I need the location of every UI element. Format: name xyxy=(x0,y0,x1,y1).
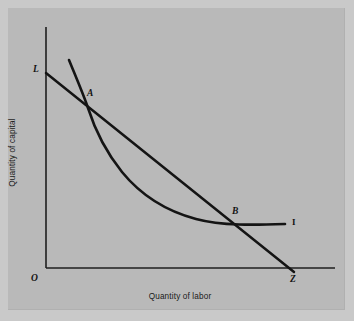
x-axis-title: Quantity of labor xyxy=(110,292,250,301)
label-origin-O: O xyxy=(31,273,38,283)
label-isoquant-I: I xyxy=(292,217,296,227)
label-point-B: B xyxy=(232,206,238,216)
figure-container: Quantity of capital Quantity of labor L … xyxy=(0,0,354,321)
isocost-line-LZ xyxy=(46,73,294,272)
chart-svg xyxy=(0,0,354,321)
y-axis-title: Quantity of capital xyxy=(8,108,17,198)
isoquant-curve-I xyxy=(69,60,285,225)
label-isocost-top-L: L xyxy=(33,64,39,74)
label-point-A: A xyxy=(87,88,93,98)
label-isocost-bottom-Z: Z xyxy=(290,274,296,284)
